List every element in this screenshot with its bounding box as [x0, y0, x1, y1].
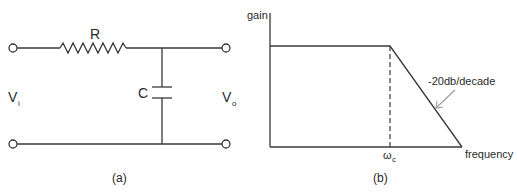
output-terminal-top: [222, 44, 230, 52]
capacitor-label: C: [138, 85, 148, 101]
x-axis-label: frequency: [465, 148, 514, 160]
annotation-arrow-line: [437, 90, 455, 107]
cutoff-frequency-subscript: c: [392, 155, 396, 164]
plot-caption: (b): [373, 171, 388, 185]
input-terminal-top: [9, 44, 17, 52]
resistor-icon: [60, 43, 126, 53]
input-terminal-bottom: [9, 140, 17, 148]
input-voltage-subscript: i: [18, 99, 20, 108]
rc-circuit: R C V i V o (a): [8, 26, 237, 185]
cutoff-frequency-label: ω: [383, 149, 392, 161]
resistor-label: R: [90, 26, 100, 42]
diagram-canvas: R C V i V o (a) gain frequency ω c -20db…: [0, 0, 517, 192]
slope-annotation: -20db/decade: [428, 75, 495, 87]
output-voltage-label: V: [222, 89, 232, 105]
output-voltage-subscript: o: [232, 99, 237, 108]
bode-plot: gain frequency ω c -20db/decade (b): [247, 9, 514, 185]
y-axis-label: gain: [247, 9, 268, 21]
output-terminal-bottom: [222, 140, 230, 148]
circuit-caption: (a): [112, 171, 127, 185]
input-voltage-label: V: [8, 89, 18, 105]
gain-curve: [270, 46, 462, 147]
